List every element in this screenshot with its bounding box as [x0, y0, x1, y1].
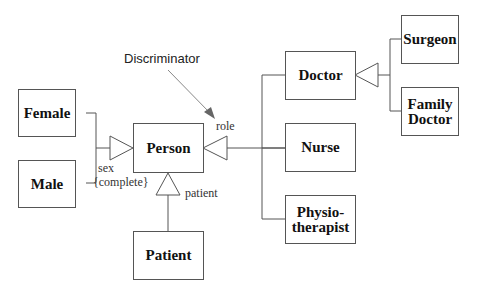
class-person-label: Person — [146, 141, 190, 156]
class-physiotherapist-label: Physio- therapist — [292, 205, 350, 235]
patient-discriminator-label: patient — [185, 186, 218, 201]
class-female[interactable]: Female — [18, 89, 76, 137]
patient-generalization-triangle — [156, 173, 180, 195]
class-physiotherapist[interactable]: Physio- therapist — [285, 195, 356, 244]
class-patient[interactable]: Patient — [133, 231, 204, 280]
class-female-label: Female — [24, 106, 71, 121]
class-male[interactable]: Male — [18, 160, 76, 208]
discriminator-callout: Discriminator — [124, 51, 200, 66]
class-doctor-label: Doctor — [298, 68, 342, 83]
class-surgeon[interactable]: Surgeon — [401, 15, 459, 64]
class-male-label: Male — [31, 177, 63, 192]
uml-diagram: Female Male Person Patient Doctor Nurse … — [0, 0, 477, 295]
doctor-branch-connector — [390, 39, 401, 111]
class-doctor[interactable]: Doctor — [285, 51, 356, 100]
class-family-doctor[interactable]: Family Doctor — [401, 87, 459, 136]
female-connector — [86, 113, 110, 148]
role-generalization-triangle — [203, 136, 227, 160]
sex-label: sex — [98, 161, 114, 176]
complete-constraint-label: {complete} — [93, 175, 149, 190]
doctor-generalization-triangle — [355, 63, 378, 87]
class-person[interactable]: Person — [133, 123, 204, 173]
class-nurse-label: Nurse — [301, 140, 339, 155]
role-branch-connector — [262, 75, 285, 219]
class-surgeon-label: Surgeon — [403, 32, 456, 47]
discriminator-arrow-line — [168, 70, 210, 113]
class-family-doctor-label: Family Doctor — [408, 97, 453, 127]
role-label: role — [216, 119, 235, 134]
class-patient-label: Patient — [146, 248, 192, 263]
class-nurse[interactable]: Nurse — [285, 123, 356, 172]
sex-generalization-triangle — [110, 136, 133, 160]
